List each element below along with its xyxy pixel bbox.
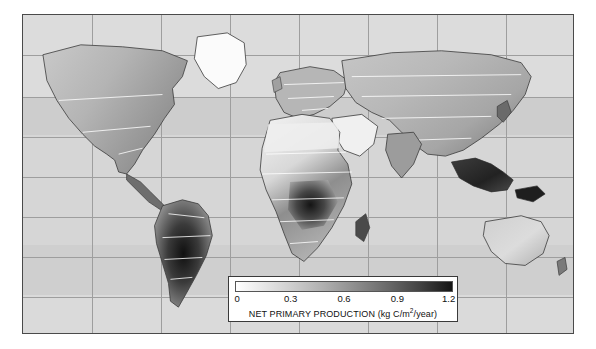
region-central-america xyxy=(127,174,165,210)
region-new-zealand xyxy=(557,257,567,275)
region-north-america xyxy=(43,45,187,174)
africa-sahara-band xyxy=(264,122,340,152)
legend-tick-1-2: 1.2 xyxy=(442,293,455,304)
region-south-america xyxy=(155,200,213,307)
region-greenland xyxy=(194,33,246,89)
legend-tick-0-9: 0.9 xyxy=(391,293,404,304)
region-australia xyxy=(483,216,549,266)
legend: 0 0.3 0.6 0.9 1.2 NET PRIMARY PRODUCTION… xyxy=(228,276,458,322)
region-new-guinea xyxy=(515,186,545,202)
legend-tick-0-3: 0.3 xyxy=(284,293,297,304)
world-map-figure: 0 0.3 0.6 0.9 1.2 NET PRIMARY PRODUCTION… xyxy=(0,0,596,349)
legend-tick-labels: 0 0.3 0.6 0.9 1.2 xyxy=(235,293,453,306)
legend-color-bar xyxy=(235,281,453,292)
legend-title-main: NET PRIMARY PRODUCTION (kg C/m xyxy=(249,309,410,319)
region-india xyxy=(386,132,422,178)
region-madagascar xyxy=(356,214,370,242)
legend-title-suffix: /year) xyxy=(414,309,438,319)
region-southeast-asia xyxy=(451,158,513,192)
legend-tick-0: 0 xyxy=(235,293,240,304)
legend-tick-0-6: 0.6 xyxy=(337,293,350,304)
region-europe xyxy=(274,67,348,119)
legend-title: NET PRIMARY PRODUCTION (kg C/m2/year) xyxy=(235,307,451,319)
